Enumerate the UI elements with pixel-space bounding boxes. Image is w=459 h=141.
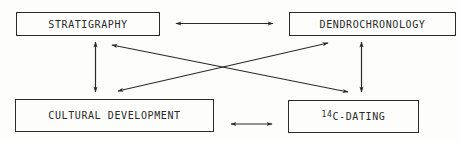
arrow-cultural-dendro: [118, 43, 328, 91]
node-c14-dating: 14C-DATING: [288, 100, 419, 133]
node-label: CULTURAL DEVELOPMENT: [48, 110, 180, 121]
node-dendrochronology: DENDROCHRONOLOGY: [289, 12, 456, 36]
node-stratigraphy: STRATIGRAPHY: [16, 12, 160, 36]
isotope-superscript: 14: [322, 110, 333, 119]
node-label: DENDROCHRONOLOGY: [320, 19, 426, 30]
node-label-wrap: 14C-DATING: [322, 111, 386, 122]
node-label: C-DATING: [332, 111, 385, 122]
node-cultural-development: CULTURAL DEVELOPMENT: [15, 99, 214, 132]
node-label: STRATIGRAPHY: [48, 19, 127, 30]
arrow-strat-c14: [112, 45, 348, 92]
